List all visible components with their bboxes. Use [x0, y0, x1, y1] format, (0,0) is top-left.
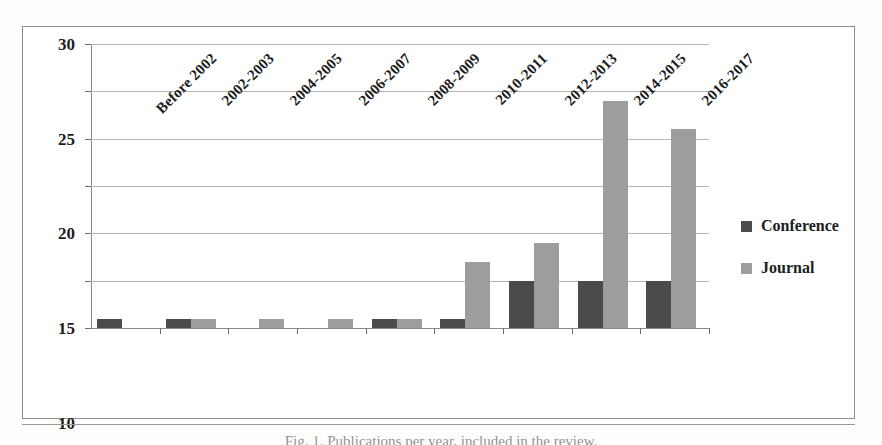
- caption-divider: [22, 424, 855, 425]
- bar-journal-6: [534, 243, 559, 328]
- x-tick-label-4: 2008-2009: [424, 50, 483, 109]
- y-tick-label-30: 30: [58, 35, 75, 55]
- bar-journal-4: [397, 319, 422, 328]
- y-tick-5: 5: [85, 281, 91, 282]
- x-tick-7: [640, 328, 641, 334]
- y-tick-20: 20: [85, 139, 91, 140]
- x-tick-label-7: 2014-2015: [630, 50, 689, 109]
- square-swatch-icon: [741, 221, 752, 232]
- chart-legend: Conference Journal: [741, 217, 839, 301]
- y-tick-10: 10: [85, 233, 91, 234]
- square-swatch-icon: [741, 263, 752, 274]
- x-tick-1: [228, 328, 229, 334]
- bar-conference-0: [97, 319, 122, 328]
- bar-journal-7: [603, 101, 628, 328]
- x-tick-4: [434, 328, 435, 334]
- bar-journal-3: [328, 319, 353, 328]
- x-tick-label-2: 2004-2005: [287, 50, 346, 109]
- bar-conference-7: [578, 281, 603, 328]
- x-tick-5: [503, 328, 504, 334]
- legend-label-journal: Journal: [761, 259, 814, 277]
- x-tick-label-3: 2006-2007: [356, 50, 415, 109]
- y-tick-15: 15: [85, 186, 91, 187]
- x-tick-6: [572, 328, 573, 334]
- chart-frame: 051015202530 Before 20022002-20032004-20…: [22, 26, 855, 419]
- y-tick-label-25: 25: [58, 130, 75, 150]
- legend-item-conference: Conference: [741, 217, 839, 235]
- bar-journal-8: [671, 129, 696, 328]
- figure-caption: Fig. 1. Publications per year, included …: [0, 433, 882, 445]
- legend-label-conference: Conference: [761, 217, 839, 235]
- gridline-0: [91, 328, 709, 329]
- x-tick-8: [709, 328, 710, 334]
- bar-journal-5: [465, 262, 490, 328]
- x-tick-0: [160, 328, 161, 334]
- plot-area: 051015202530 Before 20022002-20032004-20…: [91, 44, 709, 328]
- x-tick-label-0: Before 2002: [153, 50, 220, 117]
- x-tick-label-5: 2010-2011: [493, 50, 552, 109]
- figure-page: 051015202530 Before 20022002-20032004-20…: [0, 0, 882, 445]
- bar-conference-5: [440, 319, 465, 328]
- bar-conference-4: [372, 319, 397, 328]
- y-tick-30: 30: [85, 44, 91, 45]
- x-tick-label-8: 2016-2017: [699, 50, 758, 109]
- x-tick-2: [297, 328, 298, 334]
- bar-journal-2: [259, 319, 284, 328]
- x-tick-3: [366, 328, 367, 334]
- y-tick-0: 0: [85, 328, 91, 329]
- legend-item-journal: Journal: [741, 259, 839, 277]
- bar-conference-6: [509, 281, 534, 328]
- bar-journal-1: [191, 319, 216, 328]
- y-tick-label-15: 15: [58, 319, 75, 339]
- y-tick-25: 25: [85, 91, 91, 92]
- bar-conference-1: [166, 319, 191, 328]
- y-tick-label-20: 20: [58, 224, 75, 244]
- bar-conference-8: [646, 281, 671, 328]
- gridline-30: [91, 44, 709, 45]
- x-tick-label-1: 2002-2003: [218, 50, 277, 109]
